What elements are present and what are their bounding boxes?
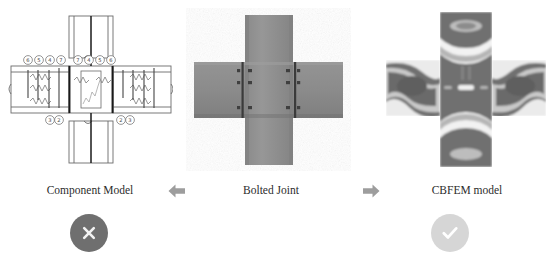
caption-component-model: Component Model xyxy=(10,181,170,199)
component-model-drawing: 6 5 4 7 7 4 5 6 xyxy=(8,8,173,171)
check-icon xyxy=(439,222,461,244)
panel-component-model: 6 5 4 7 7 4 5 6 xyxy=(8,8,173,171)
bolted-joint-photo xyxy=(186,8,351,171)
svg-text:7: 7 xyxy=(76,57,79,63)
panel-bolted-joint xyxy=(186,8,351,171)
cbfem-contour-plot xyxy=(382,8,550,171)
caption-cbfem-model: CBFEM model xyxy=(392,181,542,199)
arrow-left-icon xyxy=(166,182,188,200)
svg-text:5: 5 xyxy=(37,57,40,63)
svg-text:6: 6 xyxy=(26,57,29,63)
svg-text:2: 2 xyxy=(119,117,122,123)
cross-icon xyxy=(79,223,99,243)
panel-cbfem-model xyxy=(382,8,550,171)
svg-text:3: 3 xyxy=(48,117,51,123)
status-badge-reject xyxy=(70,214,108,252)
arrow-right-icon xyxy=(360,182,382,200)
status-badge-accept xyxy=(431,214,469,252)
svg-text:7: 7 xyxy=(59,57,62,63)
svg-text:5: 5 xyxy=(98,57,101,63)
svg-text:3: 3 xyxy=(128,117,131,123)
svg-text:6: 6 xyxy=(109,57,112,63)
svg-text:2: 2 xyxy=(57,117,60,123)
figure-root: 6 5 4 7 7 4 5 6 xyxy=(0,0,557,262)
caption-bolted-joint: Bolted Joint xyxy=(196,181,346,199)
